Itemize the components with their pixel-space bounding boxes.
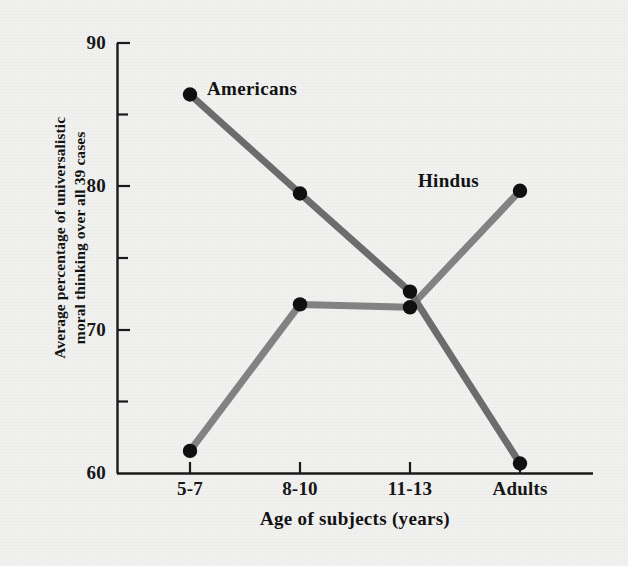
x-tick-label-5-7: 5-7: [140, 478, 240, 500]
y-major-ticks: [117, 43, 130, 330]
chart-figure: 90 80 70 60 5-7 8-10 11-13 Adults Age of…: [0, 0, 628, 566]
x-tick-label-8-10: 8-10: [250, 478, 350, 500]
x-tick-label-adults: Adults: [470, 478, 570, 500]
x-tick-label-11-13: 11-13: [360, 478, 460, 500]
x-axis-title: Age of subjects (years): [117, 508, 593, 530]
data-point: [183, 87, 197, 101]
y-axis-title-line-1: Average percentage of universalistic: [50, 28, 70, 448]
series-line-hindus: [190, 191, 520, 451]
axes: [117, 43, 593, 474]
series-markers-americans: [183, 87, 527, 470]
data-point: [293, 297, 307, 311]
data-point: [513, 184, 527, 198]
series-label-hindus: Hindus: [418, 170, 479, 192]
y-axis-title-line-2: moral thinking over all 39 cases: [70, 28, 90, 448]
y-tick-label-60: 60: [60, 462, 106, 484]
data-point: [403, 284, 417, 298]
series-markers-hindus: [183, 184, 527, 458]
y-axis-title: Average percentage of universalistic mor…: [50, 28, 90, 448]
x-ticks: [190, 462, 520, 473]
data-point: [403, 300, 417, 314]
series-label-americans: Americans: [207, 78, 297, 100]
data-point: [513, 456, 527, 470]
data-point: [183, 444, 197, 458]
data-point: [293, 186, 307, 200]
series-line-americans: [190, 95, 520, 464]
